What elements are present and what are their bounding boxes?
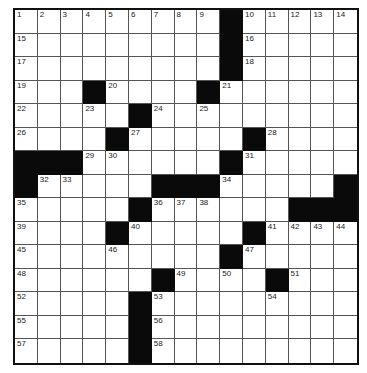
grid-cell[interactable] bbox=[61, 292, 84, 316]
grid-cell[interactable] bbox=[220, 128, 243, 152]
grid-cell[interactable]: 42 bbox=[289, 222, 312, 246]
grid-cell[interactable] bbox=[152, 57, 175, 81]
grid-cell[interactable] bbox=[243, 81, 266, 105]
grid-cell[interactable] bbox=[38, 316, 61, 340]
grid-cell[interactable] bbox=[289, 292, 312, 316]
grid-cell[interactable] bbox=[243, 269, 266, 293]
grid-cell[interactable]: 21 bbox=[220, 81, 243, 105]
grid-cell[interactable] bbox=[220, 104, 243, 128]
grid-cell[interactable]: 16 bbox=[243, 34, 266, 58]
grid-cell[interactable] bbox=[311, 292, 334, 316]
grid-cell[interactable] bbox=[38, 128, 61, 152]
grid-cell[interactable] bbox=[175, 104, 198, 128]
grid-cell[interactable]: 39 bbox=[15, 222, 38, 246]
grid-cell[interactable]: 49 bbox=[175, 269, 198, 293]
grid-cell[interactable]: 24 bbox=[152, 104, 175, 128]
grid-cell[interactable] bbox=[334, 245, 357, 269]
grid-cell[interactable] bbox=[243, 175, 266, 199]
grid-cell[interactable]: 48 bbox=[15, 269, 38, 293]
grid-cell[interactable] bbox=[197, 339, 220, 363]
grid-cell[interactable] bbox=[38, 198, 61, 222]
grid-cell[interactable] bbox=[289, 316, 312, 340]
grid-cell[interactable] bbox=[129, 245, 152, 269]
grid-cell[interactable] bbox=[83, 128, 106, 152]
grid-cell[interactable]: 6 bbox=[129, 10, 152, 34]
grid-cell[interactable] bbox=[83, 316, 106, 340]
grid-cell[interactable]: 26 bbox=[15, 128, 38, 152]
grid-cell[interactable] bbox=[106, 198, 129, 222]
grid-cell[interactable] bbox=[38, 245, 61, 269]
grid-cell[interactable]: 35 bbox=[15, 198, 38, 222]
grid-cell[interactable] bbox=[83, 198, 106, 222]
grid-cell[interactable] bbox=[289, 151, 312, 175]
grid-cell[interactable]: 50 bbox=[220, 269, 243, 293]
grid-cell[interactable]: 11 bbox=[266, 10, 289, 34]
grid-cell[interactable] bbox=[61, 104, 84, 128]
grid-cell[interactable] bbox=[38, 57, 61, 81]
grid-cell[interactable] bbox=[129, 151, 152, 175]
grid-cell[interactable] bbox=[83, 292, 106, 316]
grid-cell[interactable] bbox=[61, 245, 84, 269]
grid-cell[interactable] bbox=[289, 34, 312, 58]
grid-cell[interactable]: 46 bbox=[106, 245, 129, 269]
grid-cell[interactable] bbox=[129, 175, 152, 199]
grid-cell[interactable] bbox=[38, 34, 61, 58]
grid-cell[interactable] bbox=[197, 245, 220, 269]
grid-cell[interactable] bbox=[38, 104, 61, 128]
grid-cell[interactable] bbox=[129, 57, 152, 81]
grid-cell[interactable] bbox=[61, 339, 84, 363]
grid-cell[interactable] bbox=[83, 175, 106, 199]
grid-cell[interactable]: 12 bbox=[289, 10, 312, 34]
grid-cell[interactable] bbox=[152, 245, 175, 269]
grid-cell[interactable] bbox=[334, 339, 357, 363]
grid-cell[interactable]: 18 bbox=[243, 57, 266, 81]
grid-cell[interactable] bbox=[106, 175, 129, 199]
grid-cell[interactable] bbox=[266, 81, 289, 105]
grid-cell[interactable] bbox=[311, 316, 334, 340]
grid-cell[interactable]: 38 bbox=[197, 198, 220, 222]
grid-cell[interactable]: 45 bbox=[15, 245, 38, 269]
grid-cell[interactable]: 36 bbox=[152, 198, 175, 222]
grid-cell[interactable]: 40 bbox=[129, 222, 152, 246]
grid-cell[interactable] bbox=[83, 269, 106, 293]
grid-cell[interactable] bbox=[83, 339, 106, 363]
grid-cell[interactable] bbox=[220, 292, 243, 316]
grid-cell[interactable] bbox=[266, 198, 289, 222]
grid-cell[interactable] bbox=[289, 128, 312, 152]
grid-cell[interactable]: 52 bbox=[15, 292, 38, 316]
grid-cell[interactable] bbox=[334, 104, 357, 128]
grid-cell[interactable] bbox=[243, 198, 266, 222]
grid-cell[interactable] bbox=[61, 222, 84, 246]
grid-cell[interactable]: 53 bbox=[152, 292, 175, 316]
grid-cell[interactable]: 54 bbox=[266, 292, 289, 316]
grid-cell[interactable] bbox=[266, 339, 289, 363]
grid-cell[interactable]: 10 bbox=[243, 10, 266, 34]
grid-cell[interactable] bbox=[311, 81, 334, 105]
grid-cell[interactable] bbox=[83, 222, 106, 246]
grid-cell[interactable] bbox=[38, 81, 61, 105]
grid-cell[interactable]: 57 bbox=[15, 339, 38, 363]
grid-cell[interactable] bbox=[311, 34, 334, 58]
grid-cell[interactable]: 9 bbox=[197, 10, 220, 34]
grid-cell[interactable]: 43 bbox=[311, 222, 334, 246]
grid-cell[interactable] bbox=[311, 104, 334, 128]
grid-cell[interactable] bbox=[152, 128, 175, 152]
grid-cell[interactable]: 19 bbox=[15, 81, 38, 105]
grid-cell[interactable]: 29 bbox=[83, 151, 106, 175]
grid-cell[interactable] bbox=[266, 57, 289, 81]
grid-cell[interactable] bbox=[129, 81, 152, 105]
grid-cell[interactable]: 27 bbox=[129, 128, 152, 152]
grid-cell[interactable]: 31 bbox=[243, 151, 266, 175]
grid-cell[interactable] bbox=[243, 316, 266, 340]
grid-cell[interactable] bbox=[129, 269, 152, 293]
grid-cell[interactable]: 5 bbox=[106, 10, 129, 34]
grid-cell[interactable] bbox=[334, 128, 357, 152]
grid-cell[interactable] bbox=[61, 81, 84, 105]
grid-cell[interactable] bbox=[311, 128, 334, 152]
grid-cell[interactable] bbox=[61, 128, 84, 152]
grid-cell[interactable] bbox=[311, 57, 334, 81]
grid-cell[interactable]: 37 bbox=[175, 198, 198, 222]
grid-cell[interactable] bbox=[266, 34, 289, 58]
grid-cell[interactable] bbox=[38, 222, 61, 246]
grid-cell[interactable]: 20 bbox=[106, 81, 129, 105]
